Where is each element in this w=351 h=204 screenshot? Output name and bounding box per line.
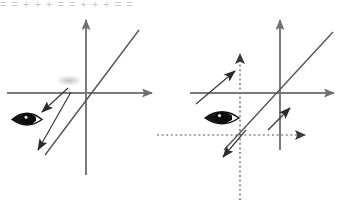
diagram-svg xyxy=(0,0,351,204)
right-upper-left-ray-arrow xyxy=(196,71,235,104)
left-observer-eye xyxy=(11,112,42,125)
right-worldline-diagonal xyxy=(224,32,333,150)
right-observer-eye xyxy=(204,111,239,125)
left-diagram xyxy=(7,20,152,175)
right-down-left-ray-arrow xyxy=(223,130,246,157)
right-diagram xyxy=(157,20,334,200)
diagram-canvas xyxy=(0,0,351,204)
left-incoming-ray-arrow xyxy=(42,88,68,112)
faint-smudge xyxy=(54,74,84,87)
